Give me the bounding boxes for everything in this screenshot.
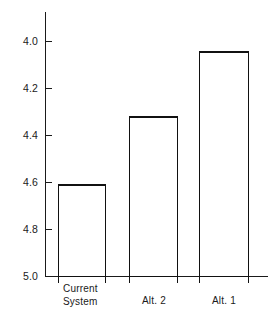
x-axis-label-current-system: Current System: [63, 283, 123, 308]
bar-alt-1[interactable]: [200, 52, 249, 277]
plot-area: 4.0 4.2 4.4 4.6 4.8 5.0 Current System A…: [0, 0, 268, 315]
y-axis-label-5-0: 5.0: [8, 271, 38, 282]
x-axis-label-alt-2: Alt. 2: [123, 295, 185, 308]
bar-current-system[interactable]: [59, 185, 106, 277]
y-axis-label-4-4: 4.4: [8, 130, 38, 141]
y-axis-label-4-6: 4.6: [8, 177, 38, 188]
y-axis-label-4-2: 4.2: [8, 83, 38, 94]
y-axis-label-4-0: 4.0: [8, 36, 38, 47]
y-tick-marks: [46, 42, 53, 230]
bar-alt-2[interactable]: [130, 117, 178, 277]
y-axis-label-4-8: 4.8: [8, 224, 38, 235]
x-axis-label-alt-1: Alt. 1: [193, 295, 255, 308]
bar-series: [59, 52, 249, 277]
bar-chart-figure: 4.0 4.2 4.4 4.6 4.8 5.0 Current System A…: [0, 0, 268, 315]
chart-canvas: [0, 0, 268, 315]
